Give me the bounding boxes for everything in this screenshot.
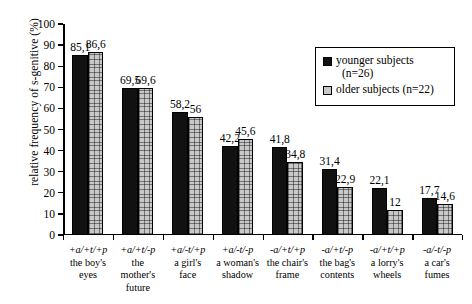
legend-label-younger-line1: younger subjects bbox=[336, 54, 414, 66]
x-category-label: +a/+t/-pthemother'sfuture bbox=[113, 244, 163, 294]
x-category-label: -a/-t/-pa car'sfumes bbox=[412, 244, 462, 282]
y-tick bbox=[58, 192, 63, 193]
x-category-label-line: shadow bbox=[213, 269, 263, 282]
bar bbox=[337, 187, 353, 235]
bar bbox=[122, 88, 138, 235]
x-category-label-line: -a/+t/-p bbox=[312, 244, 362, 257]
x-category-label-line: +a/+t/+p bbox=[63, 244, 113, 257]
bar bbox=[422, 198, 438, 235]
x-category-label-line: +a/-t/+p bbox=[163, 244, 213, 257]
x-tick bbox=[113, 235, 114, 240]
bar-value-label: 14,6 bbox=[435, 190, 455, 202]
bar-value-label: 22,1 bbox=[369, 174, 389, 186]
x-category-label-line: -a/+t/+p bbox=[362, 244, 412, 257]
x-category-label-line: -a/+t/+p bbox=[263, 244, 313, 257]
bar-group-item: 85,186,6 bbox=[72, 24, 103, 235]
x-category-label-line: +a/+t/-p bbox=[113, 244, 163, 257]
y-tick bbox=[58, 150, 63, 151]
bar bbox=[88, 52, 104, 235]
y-tick bbox=[58, 23, 63, 24]
x-category-label-line: a girl's bbox=[163, 257, 213, 270]
bar-group-item: 41,834,8 bbox=[272, 24, 303, 235]
legend-swatch-younger bbox=[323, 57, 332, 66]
bar-value-label: 22,9 bbox=[335, 173, 355, 185]
legend-label-younger-line2: (n=26) bbox=[336, 67, 414, 80]
y-tick-label: 100 bbox=[38, 18, 55, 30]
y-tick-label: 90 bbox=[44, 39, 56, 51]
x-category-label: -a/+t/+pa lorry'swheels bbox=[362, 244, 412, 282]
y-tick-label: 60 bbox=[44, 102, 56, 114]
bar-group-item: 69,569,6 bbox=[122, 24, 153, 235]
y-tick-label: 50 bbox=[44, 124, 56, 136]
y-tick bbox=[58, 213, 63, 214]
bar bbox=[188, 117, 204, 235]
y-tick-label: 20 bbox=[44, 187, 56, 199]
bar-value-label: 69,6 bbox=[136, 74, 156, 86]
legend: younger subjects(n=26) older subjects (n… bbox=[315, 47, 455, 106]
x-tick bbox=[63, 235, 64, 240]
x-category-label-line: face bbox=[163, 269, 213, 282]
x-category-label-line: a car's bbox=[412, 257, 462, 270]
x-category-label-line: a woman's bbox=[213, 257, 263, 270]
y-tick bbox=[58, 44, 63, 45]
x-category-label-line: eyes bbox=[63, 269, 113, 282]
legend-label-younger: younger subjects(n=26) bbox=[336, 54, 414, 80]
y-tick-label: 40 bbox=[44, 145, 56, 157]
x-category-label-line: fumes bbox=[412, 269, 462, 282]
x-tick bbox=[213, 235, 214, 240]
y-tick-label: 10 bbox=[44, 208, 56, 220]
bar bbox=[72, 55, 88, 235]
x-category-label-line: -a/-t/-p bbox=[412, 244, 462, 257]
bar-group-item: 42,245,6 bbox=[222, 24, 253, 235]
x-tick bbox=[462, 235, 463, 240]
bar bbox=[272, 147, 288, 235]
y-axis-title: relative frequency of s-genitive (%) bbox=[28, 0, 40, 222]
bar bbox=[222, 146, 238, 235]
bar bbox=[238, 139, 254, 235]
y-tick bbox=[58, 87, 63, 88]
x-tick bbox=[263, 235, 264, 240]
x-category-label-line: the boy's bbox=[63, 257, 113, 270]
x-tick bbox=[362, 235, 363, 240]
x-tick bbox=[312, 235, 313, 240]
x-category-label-line: a lorry's bbox=[362, 257, 412, 270]
x-tick bbox=[412, 235, 413, 240]
bar-value-label: 34,8 bbox=[285, 148, 305, 160]
x-category-label-line: future bbox=[113, 282, 163, 295]
y-tick-label: 70 bbox=[44, 81, 56, 93]
bar-value-label: 31,4 bbox=[320, 155, 340, 167]
legend-swatch-older bbox=[323, 86, 332, 95]
bar bbox=[172, 112, 188, 235]
legend-item-older: older subjects (n=22) bbox=[323, 83, 448, 96]
y-axis-line bbox=[63, 24, 65, 235]
bar bbox=[437, 204, 453, 235]
bar-value-label: 58,2 bbox=[170, 98, 190, 110]
bar-value-label: 56 bbox=[190, 103, 202, 115]
bar bbox=[387, 210, 403, 235]
bar-group-item: 58,256 bbox=[172, 24, 203, 235]
bar-value-label: 41,8 bbox=[270, 133, 290, 145]
x-category-label-line: frame bbox=[263, 269, 313, 282]
x-category-label-line: the chair's bbox=[263, 257, 313, 270]
x-tick bbox=[163, 235, 164, 240]
x-category-label-line: wheels bbox=[362, 269, 412, 282]
y-tick bbox=[58, 108, 63, 109]
bar bbox=[138, 88, 154, 235]
bar-chart: relative frequency of s-genitive (%) 100… bbox=[0, 0, 472, 304]
y-tick bbox=[58, 66, 63, 67]
y-tick bbox=[58, 171, 63, 172]
y-tick-label: 80 bbox=[44, 60, 56, 72]
x-category-label: -a/+t/+pthe chair'sframe bbox=[263, 244, 313, 282]
x-category-label: -a/+t/-pthe bag'scontents bbox=[312, 244, 362, 282]
x-category-label-line: mother's bbox=[113, 269, 163, 282]
x-category-label: +a/-t/-pa woman'sshadow bbox=[213, 244, 263, 282]
bar-value-label: 45,6 bbox=[235, 125, 255, 137]
bar-value-label: 86,6 bbox=[86, 38, 106, 50]
legend-label-older: older subjects (n=22) bbox=[336, 83, 434, 96]
bar bbox=[372, 188, 388, 235]
y-tick-label: 0 bbox=[49, 229, 55, 241]
bar-value-label: 12 bbox=[389, 196, 401, 208]
legend-item-younger: younger subjects(n=26) bbox=[323, 54, 448, 80]
x-category-label-line: contents bbox=[312, 269, 362, 282]
x-category-label-line: the bbox=[113, 257, 163, 270]
